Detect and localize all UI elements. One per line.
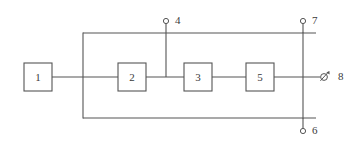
open-circle-icon — [163, 18, 168, 23]
terminal-7-label: 7 — [312, 14, 318, 26]
open-circle-icon — [300, 128, 305, 133]
block-1[interactable]: 1 — [24, 63, 52, 91]
block-1-label: 1 — [35, 71, 41, 83]
terminal-7[interactable]: 7 — [300, 14, 318, 26]
terminal-4[interactable]: 4 — [163, 14, 181, 26]
block-2[interactable]: 2 — [118, 63, 146, 91]
open-circle-icon — [300, 18, 305, 23]
terminal-8[interactable]: 8 — [320, 70, 344, 82]
terminal-4-label: 4 — [175, 14, 181, 26]
terminal-6-label: 6 — [312, 124, 318, 136]
block-5-label: 5 — [257, 71, 263, 83]
terminal-8-label: 8 — [338, 70, 344, 82]
schematic-canvas: 1 2 3 5 4 7 6 — [0, 0, 363, 150]
block-2-label: 2 — [129, 71, 135, 83]
schematic-diagram: 1 2 3 5 4 7 6 — [0, 0, 363, 150]
block-3-label: 3 — [195, 71, 201, 83]
block-5[interactable]: 5 — [246, 63, 274, 91]
block-3[interactable]: 3 — [184, 63, 212, 91]
